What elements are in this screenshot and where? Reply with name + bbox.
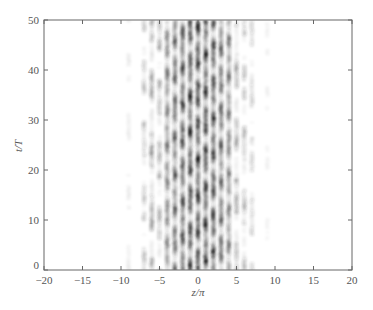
y-tick-label: 20 xyxy=(28,164,40,176)
x-tick-label: −20 xyxy=(35,274,53,286)
tick-labels: −20−15−10−50510152001020304050 xyxy=(28,14,358,286)
y-tick-label: 30 xyxy=(28,114,40,126)
y-tick-label: 40 xyxy=(28,64,40,76)
y-axis-label: t/T xyxy=(12,139,24,152)
x-tick-label: 5 xyxy=(234,274,240,286)
y-tick-label: 10 xyxy=(28,214,40,226)
y-tick-label: 50 xyxy=(28,14,40,26)
x-tick-label: 10 xyxy=(270,274,282,286)
x-axis-label: z/π xyxy=(191,286,205,298)
x-tick-label: −15 xyxy=(74,274,92,286)
x-tick-label: −5 xyxy=(154,274,166,286)
x-tick-label: −10 xyxy=(112,274,130,286)
heatmap-area xyxy=(126,20,270,271)
x-tick-label: 20 xyxy=(347,274,359,286)
x-tick-label: 0 xyxy=(195,274,201,286)
x-tick-label: 15 xyxy=(308,274,320,286)
y-tick-label: 0 xyxy=(34,259,40,271)
chart: −20−15−10−50510152001020304050 z/π t/T xyxy=(0,0,373,310)
